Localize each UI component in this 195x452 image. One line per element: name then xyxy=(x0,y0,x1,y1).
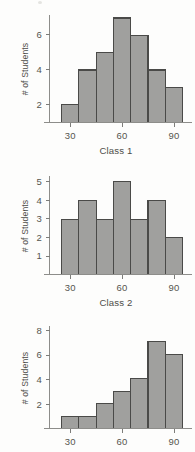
bar-2-5 xyxy=(148,201,165,275)
bar-2-2 xyxy=(96,219,113,274)
bar-1-1 xyxy=(79,70,96,123)
x-tick-label-2-0: 30 xyxy=(65,282,76,293)
bar-2-0 xyxy=(62,219,79,274)
bar-1-2 xyxy=(96,53,113,123)
x-tick-label-3-2: 90 xyxy=(169,436,180,447)
x-tick-label-1-0: 30 xyxy=(65,130,76,141)
bar-3-6 xyxy=(165,354,182,428)
bar-3-2 xyxy=(96,404,113,429)
y-tick-label-3-3: 8 xyxy=(37,325,42,336)
bar-3-3 xyxy=(113,391,130,428)
x-axis-group-2: 30 60 90 Class 2 xyxy=(44,275,192,309)
x-tick-label-1-1: 60 xyxy=(117,130,128,141)
histogram-panel-class-1: 2 4 6 # of Students 30 xyxy=(0,0,195,162)
bar-1-5 xyxy=(148,70,165,123)
y-tick-label-1-0: 2 xyxy=(37,99,42,110)
y-axis-title-1: # of Students xyxy=(20,43,30,96)
x-tick-label-2-2: 90 xyxy=(169,282,180,293)
x-axis-title-2: Class 2 xyxy=(99,297,132,308)
bar-3-1 xyxy=(79,416,96,428)
y-tick-label-2-3: 4 xyxy=(37,195,42,206)
histogram-plot-2: 1 2 3 4 5 # of Students xyxy=(0,162,195,312)
bars-group-3 xyxy=(62,342,183,429)
y-tick-label-2-0: 1 xyxy=(37,250,42,261)
bar-1-6 xyxy=(165,87,182,122)
x-axis-group-3: 30 60 90 xyxy=(44,429,192,448)
y-tick-label-1-1: 4 xyxy=(37,64,42,75)
y-axis-title-2: # of Students xyxy=(20,200,30,253)
y-tick-label-2-4: 5 xyxy=(37,176,42,187)
x-tick-label-3-0: 30 xyxy=(65,436,76,447)
bar-1-0 xyxy=(62,105,79,123)
histogram-plot-1: 2 4 6 # of Students 30 xyxy=(0,0,195,162)
y-tick-label-3-1: 4 xyxy=(37,374,42,385)
bar-2-3 xyxy=(113,182,130,275)
bar-3-4 xyxy=(131,379,148,429)
histogram-plot-3: 2 4 6 8 # of Students xyxy=(0,312,195,452)
y-tick-label-3-2: 6 xyxy=(37,349,42,360)
y-axis-group-3: 2 4 6 8 # of Students xyxy=(20,325,50,428)
bar-2-6 xyxy=(165,238,182,275)
bars-group-1 xyxy=(62,18,183,123)
x-axis-title-1: Class 1 xyxy=(99,145,132,156)
bar-2-4 xyxy=(131,219,148,274)
x-tick-label-3-1: 60 xyxy=(117,436,128,447)
bar-2-1 xyxy=(79,201,96,275)
bar-1-4 xyxy=(131,35,148,122)
y-axis-group-1: 2 4 6 # of Students xyxy=(20,15,50,122)
y-axis-title-3: # of Students xyxy=(20,352,30,405)
bar-3-5 xyxy=(148,342,165,429)
x-tick-label-1-2: 90 xyxy=(169,130,180,141)
bars-group-2 xyxy=(62,182,183,275)
y-tick-label-2-2: 3 xyxy=(37,213,42,224)
histogram-panel-class-2: 1 2 3 4 5 # of Students xyxy=(0,162,195,312)
y-tick-label-2-1: 2 xyxy=(37,232,42,243)
bar-1-3 xyxy=(113,18,130,123)
x-axis-group-1: 30 60 90 Class 1 xyxy=(44,123,192,157)
y-axis-group-2: 1 2 3 4 5 # of Students xyxy=(20,176,50,274)
figure-canvas: 2 4 6 # of Students 30 xyxy=(0,0,195,452)
y-tick-label-3-0: 2 xyxy=(37,399,42,410)
bar-3-0 xyxy=(62,416,79,428)
y-tick-label-1-2: 6 xyxy=(37,29,42,40)
histogram-panel-third: 2 4 6 8 # of Students xyxy=(0,312,195,452)
x-tick-label-2-1: 60 xyxy=(117,282,128,293)
